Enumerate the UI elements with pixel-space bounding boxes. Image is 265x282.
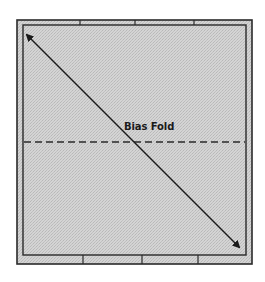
- bias-fold-diagram: [0, 0, 265, 282]
- fold-label: Bias Fold: [124, 121, 174, 132]
